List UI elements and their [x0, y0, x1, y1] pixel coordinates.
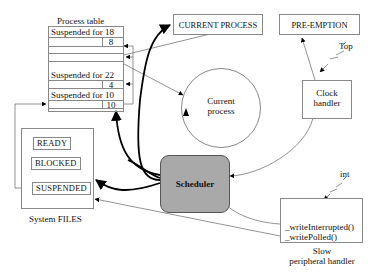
table-row: 8 [49, 38, 123, 47]
row-value: 10 [102, 101, 119, 109]
table-row: 4 [49, 81, 123, 89]
top-signal-label: Top [339, 41, 353, 51]
int-signal-label: int [340, 169, 350, 179]
row-label: Suspended for 18 [51, 27, 114, 37]
state-ready: READY [33, 137, 71, 150]
row-value: 8 [102, 38, 119, 46]
function-write-interrupted: _writeInterrupted() [285, 222, 354, 232]
table-row: Suspended for 22 [49, 62, 123, 81]
current-process-box: CURRENT PROCESS [173, 14, 263, 35]
system-files-title: System FILES [29, 214, 82, 224]
current-process-label-2: process [201, 106, 241, 116]
table-row [49, 47, 123, 54]
preemption-box: PRE-EMPTION [279, 14, 360, 35]
table-row: 10 [49, 101, 123, 109]
peripheral-caption-1: Slow [282, 246, 362, 256]
row-label: Suspended for 22 [51, 70, 114, 80]
table-row [49, 54, 123, 62]
peripheral-caption-2: peripheral handler [277, 256, 367, 266]
scheduler-label: Scheduler [176, 179, 215, 189]
row-label: Suspended for 10 [51, 90, 114, 100]
clock-handler-label-2: handler [302, 98, 352, 108]
state-suspended: SUSPENDED [32, 182, 91, 195]
current-process-label-1: Current [201, 96, 241, 106]
function-write-polled: _writePolled() [285, 232, 337, 242]
process-table: Suspended for 18 8 Suspended for 22 4 Su… [48, 26, 124, 112]
process-table-title: Process table [57, 16, 104, 26]
scheduler-node: Scheduler [160, 155, 230, 213]
clock-handler-label-1: Clock [302, 88, 352, 98]
row-value: 4 [102, 81, 119, 89]
state-blocked: BLOCKED [31, 157, 81, 170]
